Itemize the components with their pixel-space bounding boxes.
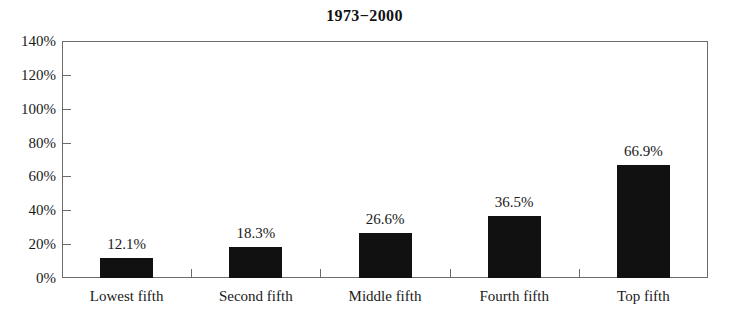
x-axis-category-labels: Lowest fifthSecond fifthMiddle fifthFour…: [62, 288, 708, 318]
bar-value-label: 36.5%: [495, 195, 534, 210]
x-axis-category-label: Lowest fifth: [90, 288, 164, 305]
bar-value-label: 18.3%: [236, 226, 275, 241]
x-axis-category-label: Top fifth: [617, 288, 670, 305]
bar: [488, 216, 541, 278]
bar: [617, 165, 670, 278]
bar: [100, 258, 153, 278]
x-axis-category-label: Middle fifth: [349, 288, 422, 305]
x-axis-category-label: Second fifth: [219, 288, 293, 305]
y-axis-tick-label: 40%: [0, 203, 56, 218]
bars-layer: 12.1%18.3%26.6%36.5%66.9%: [62, 41, 708, 278]
y-axis-tick-label: 0%: [0, 271, 56, 286]
bar-chart: 1973−2000 0%20%40%60%80%100%120%140% 12.…: [0, 0, 729, 328]
bar: [359, 233, 412, 278]
bar-value-label: 26.6%: [366, 212, 405, 227]
y-axis-tick-label: 60%: [0, 169, 56, 184]
bar: [229, 247, 282, 278]
y-axis-tick-label: 100%: [0, 101, 56, 116]
chart-title: 1973−2000: [0, 7, 729, 25]
bar-value-label: 66.9%: [624, 144, 663, 159]
y-axis-tick-labels: 0%20%40%60%80%100%120%140%: [0, 41, 56, 278]
y-axis-tick-label: 140%: [0, 34, 56, 49]
x-axis-tick-marks: [62, 278, 708, 288]
y-axis-tick-label: 20%: [0, 237, 56, 252]
bar-value-label: 12.1%: [107, 237, 146, 252]
y-axis-tick-label: 120%: [0, 67, 56, 82]
x-axis-category-label: Fourth fifth: [479, 288, 549, 305]
y-axis-tick-label: 80%: [0, 135, 56, 150]
